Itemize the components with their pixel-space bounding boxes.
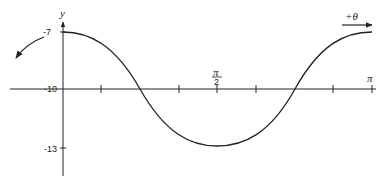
theta-direction-label: +θ <box>345 10 358 22</box>
y-tick-label-top: -7 <box>43 27 51 37</box>
cosine-chart: y -7 -10 -13 π 2 π +θ <box>0 0 386 184</box>
y-tick-label-mid: -10 <box>44 84 57 94</box>
pi-half-denominator: 2 <box>214 77 219 87</box>
pi-label: π <box>367 72 373 84</box>
curved-arrow-icon <box>16 37 44 58</box>
y-tick-label-bot: -13 <box>44 144 57 154</box>
y-axis-label: y <box>59 7 65 19</box>
